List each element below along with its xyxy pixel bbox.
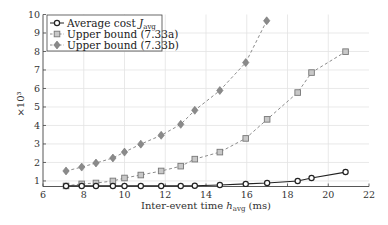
circle-marker [217, 182, 222, 187]
square-marker [264, 117, 270, 123]
circle-marker [243, 181, 248, 186]
square-marker [295, 90, 301, 96]
square-marker [217, 149, 223, 155]
diamond-marker [217, 87, 223, 95]
circle-marker [265, 180, 270, 185]
legend: Average cost JavgUpper bound (7.33a)Uppe… [47, 15, 179, 51]
y-tick-label: 9 [34, 27, 40, 38]
square-marker [309, 70, 315, 76]
legend-square-icon [54, 31, 60, 37]
diamond-marker [121, 148, 127, 156]
circle-marker [295, 178, 300, 183]
y-tick-label: 8 [34, 46, 40, 57]
circle-marker [138, 183, 143, 188]
x-tick-label: 22 [363, 189, 375, 200]
y-tick-label: 5 [34, 101, 40, 112]
square-marker [138, 172, 144, 178]
legend-entry: Upper bound (7.33b) [50, 39, 179, 51]
diamond-marker [110, 154, 116, 162]
x-tick-label: 18 [281, 189, 293, 200]
y-tick-label: 10 [28, 9, 40, 20]
square-marker [192, 156, 198, 162]
x-tick-label: 14 [200, 189, 212, 200]
diamond-marker [158, 131, 164, 139]
y-axis-label: ×10³ [15, 91, 26, 116]
square-marker [243, 136, 249, 142]
x-tick-label: 20 [322, 189, 334, 200]
circle-marker [93, 183, 98, 188]
y-tick-label: 1 [34, 175, 40, 186]
y-tick-label: 4 [34, 120, 40, 131]
square-marker [178, 163, 184, 169]
square-marker [122, 175, 128, 181]
circle-marker [110, 183, 115, 188]
circle-marker [178, 183, 183, 188]
y-tick-label: 6 [34, 83, 40, 94]
diamond-marker [264, 17, 270, 25]
x-tick-label: 16 [241, 189, 253, 200]
x-tick-label: 12 [159, 189, 171, 200]
legend-circle-icon [54, 20, 59, 25]
line-chart: 681012141618202212345678910 Average cost… [0, 0, 388, 225]
x-tick-label: 6 [40, 189, 46, 200]
y-tick-label: 2 [34, 157, 40, 168]
y-tick-label: 3 [34, 138, 40, 149]
diamond-marker [192, 106, 198, 114]
x-tick-label: 10 [118, 189, 130, 200]
diamond-marker [138, 140, 144, 148]
y-tick-label: 7 [34, 64, 40, 75]
circle-marker [63, 183, 68, 188]
diamond-marker [93, 159, 99, 167]
x-tick-label: 8 [81, 189, 87, 200]
circle-marker [192, 183, 197, 188]
diamond-marker [63, 167, 69, 175]
legend-label: Upper bound (7.33b) [67, 39, 179, 51]
square-marker [343, 49, 349, 55]
circle-marker [309, 175, 314, 180]
circle-marker [343, 169, 348, 174]
square-marker [158, 168, 164, 174]
x-axis-label: Inter-event time havg (ms) [141, 200, 271, 213]
